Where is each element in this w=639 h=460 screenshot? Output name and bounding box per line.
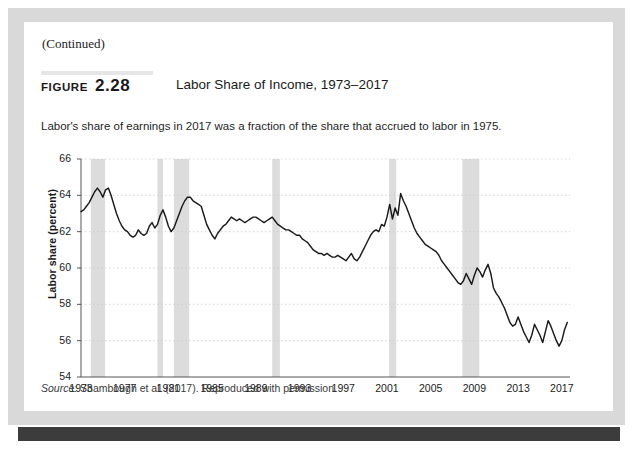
figure-card: (Continued) FIGURE 2.28 Labor Share of I… bbox=[24, 22, 613, 411]
line-chart-svg bbox=[24, 130, 613, 380]
chart-area: Labor share (percent) 545658606264661973… bbox=[24, 130, 613, 380]
source-note: Source: Shambough et al. (2017). Reprodu… bbox=[41, 382, 337, 394]
figure-divider-rule bbox=[41, 71, 153, 75]
figure-page: (Continued) FIGURE 2.28 Labor Share of I… bbox=[0, 0, 639, 460]
y-tick-label: 64 bbox=[45, 188, 71, 200]
y-tick-label: 60 bbox=[45, 261, 71, 273]
data-line-labor-share bbox=[81, 188, 567, 346]
x-tick-label: 2017 bbox=[542, 382, 582, 394]
x-tick-label: 2013 bbox=[498, 382, 538, 394]
figure-title: Labor Share of Income, 1973–2017 bbox=[176, 77, 388, 92]
source-text: Shambough et al. (2017). Reproduced with… bbox=[77, 382, 337, 394]
x-tick-label: 2001 bbox=[367, 382, 407, 394]
continued-note: (Continued) bbox=[42, 36, 105, 52]
figure-label: FIGURE 2.28 bbox=[41, 76, 130, 96]
y-tick-label: 62 bbox=[45, 225, 71, 237]
x-tick-label: 2009 bbox=[454, 382, 494, 394]
figure-number: 2.28 bbox=[95, 76, 130, 96]
x-tick-label: 2005 bbox=[411, 382, 451, 394]
y-tick-label: 58 bbox=[45, 297, 71, 309]
figure-word: FIGURE bbox=[41, 81, 88, 93]
y-tick-label: 56 bbox=[45, 334, 71, 346]
y-tick-label: 54 bbox=[45, 370, 71, 382]
page-bottom-bar bbox=[18, 427, 620, 441]
y-tick-label: 66 bbox=[45, 152, 71, 164]
source-label: Source: bbox=[41, 382, 77, 394]
